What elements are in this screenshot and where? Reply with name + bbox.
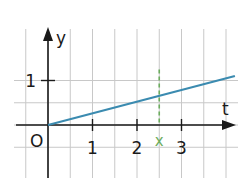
y-axis-label: y [56, 28, 66, 48]
series-line [48, 76, 235, 125]
y-axis-arrow-icon [43, 27, 53, 41]
x-tick-label: 1 [87, 138, 98, 158]
y-tick-label: 1 [25, 71, 36, 91]
marker-label: x [155, 132, 164, 150]
x-tick-label: 3 [176, 138, 187, 158]
series-layer [48, 76, 235, 125]
x-tick-label: 2 [132, 138, 143, 158]
chart: 1231 x y t O [0, 0, 247, 186]
origin-label: O [30, 131, 43, 151]
x-axis-label: t [222, 99, 229, 119]
labels: y t O [30, 28, 229, 151]
x-axis-arrow-icon [222, 120, 236, 130]
